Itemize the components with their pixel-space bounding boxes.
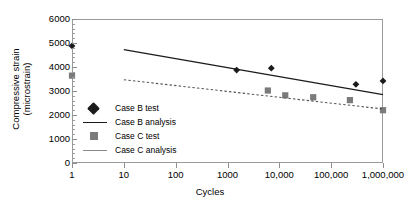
data-point-diamond (268, 65, 275, 72)
y-tick-mark (72, 19, 77, 20)
y-minor-tick (72, 48, 75, 49)
y-minor-tick (72, 105, 75, 106)
y-minor-tick (72, 53, 75, 54)
diamond-marker-icon (82, 101, 108, 115)
y-minor-tick (72, 125, 75, 126)
data-point-diamond (380, 78, 387, 85)
y-minor-tick (72, 86, 75, 87)
y-tick-mark (72, 139, 77, 140)
compressive-strain-vs-cycles-chart: Compressive strain (microstrain) 0100020… (0, 0, 420, 221)
y-minor-tick (72, 57, 75, 58)
y-tick-mark (72, 163, 77, 164)
data-point-square (347, 97, 353, 103)
data-point-square (265, 87, 271, 93)
x-tick-mark (383, 163, 384, 168)
legend-label: Case B analysis (115, 116, 176, 128)
data-point-square (310, 94, 316, 100)
y-minor-tick (72, 120, 75, 121)
y-minor-tick (72, 29, 75, 30)
square-marker-icon (82, 129, 108, 143)
y-minor-tick (72, 38, 75, 39)
y-minor-tick (72, 101, 75, 102)
legend-label: Case B test (115, 102, 159, 114)
analysis-line (124, 50, 383, 95)
y-minor-tick (72, 144, 75, 145)
y-minor-tick (72, 134, 75, 135)
y-minor-tick (72, 33, 75, 34)
x-tick-mark (124, 163, 125, 168)
x-tick-label: 10,000 (265, 170, 294, 180)
data-point-diamond (352, 81, 359, 88)
y-tick-mark (72, 91, 77, 92)
data-point-square (380, 107, 386, 113)
x-tick-label: 1,000,000 (362, 170, 404, 180)
x-tick-label: 100 (168, 170, 184, 180)
y-tick-mark (72, 115, 77, 116)
y-minor-tick (72, 96, 75, 97)
legend-label: Case C analysis (115, 144, 176, 156)
legend-label: Case C test (115, 130, 159, 142)
y-minor-tick (72, 77, 75, 78)
x-tick-mark (279, 163, 280, 168)
x-tick-mark (228, 163, 229, 168)
y-minor-tick (72, 129, 75, 130)
analysis-line (124, 80, 383, 109)
x-tick-mark (331, 163, 332, 168)
x-axis-title: Cycles (0, 186, 420, 197)
y-minor-tick (72, 62, 75, 63)
y-minor-tick (72, 149, 75, 150)
x-tick-label: 1000 (217, 170, 238, 180)
y-minor-tick (72, 72, 75, 73)
y-tick-mark (72, 43, 77, 44)
y-minor-tick (72, 153, 75, 154)
y-minor-tick (72, 81, 75, 82)
y-tick-mark (72, 67, 77, 68)
x-tick-label: 10 (119, 170, 130, 180)
y-minor-tick (72, 24, 75, 25)
x-tick-label: 1 (69, 170, 74, 180)
solid-line-icon (82, 115, 108, 129)
y-minor-tick (72, 110, 75, 111)
y-minor-tick (72, 158, 75, 159)
x-tick-label: 100,000 (314, 170, 348, 180)
gray-line-icon (82, 143, 108, 157)
x-tick-mark (176, 163, 177, 168)
